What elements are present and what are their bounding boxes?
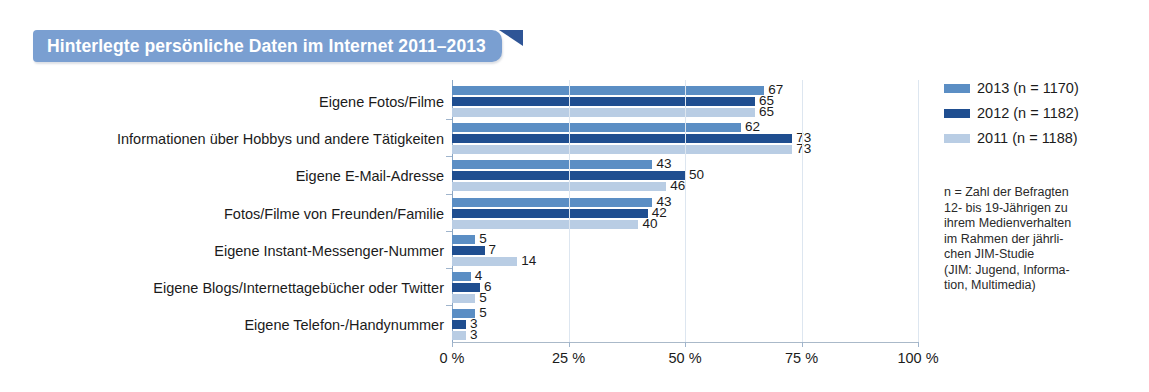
bar-value-label: 3 <box>466 327 478 342</box>
title-banner-body: Hinterlegte persönliche Daten im Interne… <box>33 30 502 62</box>
bar-2012 <box>452 134 792 143</box>
legend-swatch-icon <box>944 84 970 93</box>
title-flag-icon <box>499 30 525 62</box>
x-axis-tick-label: 50 % <box>668 350 701 366</box>
bar-value-label: 40 <box>638 216 657 231</box>
bar-value-label: 62 <box>741 119 760 134</box>
legend-swatch-icon <box>944 134 970 143</box>
bar-value-label: 7 <box>485 242 497 257</box>
bar-2012 <box>452 246 485 255</box>
bar-2011 <box>452 257 517 266</box>
category-tick <box>446 194 452 195</box>
bar-2013 <box>452 160 652 169</box>
bar-2011 <box>452 108 755 117</box>
x-axis-tick <box>569 342 570 347</box>
x-axis-tick-label: 25 % <box>552 350 585 366</box>
footnote-line: n = Zahl der Befragten <box>944 185 1144 201</box>
category-label: Eigene Instant-Messenger-Nummer <box>12 243 452 259</box>
bar-2011 <box>452 294 475 303</box>
category-tick <box>446 231 452 232</box>
legend-item: 2013 (n = 1170) <box>944 80 1149 96</box>
footnote-line: chen JIM-Studie <box>944 247 1144 263</box>
bar-value-label: 65 <box>755 104 774 119</box>
category-label: Informationen über Hobbys und andere Tät… <box>12 131 452 147</box>
x-axis-tick <box>802 342 803 347</box>
bar-2012 <box>452 209 648 218</box>
legend-swatch-icon <box>944 109 970 118</box>
bar-2013 <box>452 272 471 281</box>
x-axis-tick <box>452 342 453 347</box>
x-axis-tick-label: 75 % <box>785 350 818 366</box>
footnote: n = Zahl der Befragten12- bis 19-Jährige… <box>944 185 1144 294</box>
category-tick <box>446 119 452 120</box>
footnote-line: tion, Multimedia) <box>944 278 1144 294</box>
category-tick <box>446 156 452 157</box>
bar-2011 <box>452 331 466 340</box>
gridline <box>569 80 570 342</box>
legend-item: 2012 (n = 1182) <box>944 105 1149 121</box>
bar-2011 <box>452 145 792 154</box>
legend-label: 2013 (n = 1170) <box>977 80 1079 96</box>
bar-2013 <box>452 198 652 207</box>
bar-2011 <box>452 182 666 191</box>
bar-value-label: 5 <box>475 290 487 305</box>
legend-label: 2011 (n = 1188) <box>977 130 1078 146</box>
category-tick <box>446 305 452 306</box>
bar-2013 <box>452 123 741 132</box>
category-label: Eigene Blogs/Internettagebücher oder Twi… <box>12 280 452 296</box>
gridline <box>802 80 803 342</box>
legend-item: 2011 (n = 1188) <box>944 130 1149 146</box>
footnote-line: (JIM: Jugend, Informa- <box>944 263 1144 279</box>
footnote-line: ihrem Medienverhalten <box>944 216 1144 232</box>
category-label: Eigene E-Mail-Adresse <box>12 168 452 184</box>
bar-value-label: 46 <box>666 178 685 193</box>
category-tick <box>446 268 452 269</box>
bar-2011 <box>452 220 638 229</box>
bar-2012 <box>452 320 466 329</box>
footnote-line: im Rahmen der jährli- <box>944 232 1144 248</box>
category-label: Eigene Fotos/Filme <box>12 94 452 110</box>
category-label: Fotos/Filme von Freunden/Familie <box>12 206 452 222</box>
bar-2012 <box>452 97 755 106</box>
legend: 2013 (n = 1170)2012 (n = 1182)2011 (n = … <box>944 80 1149 155</box>
bar-value-label: 14 <box>517 253 536 268</box>
page-title: Hinterlegte persönliche Daten im Interne… <box>47 36 486 57</box>
bar-value-label: 50 <box>685 167 704 182</box>
x-axis-tick <box>918 342 919 347</box>
footnote-line: 12- bis 19-Jährigen zu <box>944 201 1144 217</box>
x-axis-tick <box>685 342 686 347</box>
category-label: Eigene Telefon-/Handynummer <box>12 317 452 333</box>
title-banner: Hinterlegte persönliche Daten im Interne… <box>33 30 525 62</box>
legend-label: 2012 (n = 1182) <box>977 105 1079 121</box>
x-axis-tick-labels: 0 %25 %50 %75 %100 % <box>0 350 1149 374</box>
gridline <box>685 80 686 342</box>
x-axis-tick-label: 0 % <box>440 350 465 366</box>
bar-2013 <box>452 86 764 95</box>
category-axis-labels: Eigene Fotos/FilmeInformationen über Hob… <box>0 80 452 342</box>
chart-page: Hinterlegte persönliche Daten im Interne… <box>0 0 1149 392</box>
gridline <box>918 80 919 342</box>
bar-2013 <box>452 235 475 244</box>
bar-value-label: 43 <box>652 156 671 171</box>
x-axis-tick-label: 100 % <box>897 350 938 366</box>
